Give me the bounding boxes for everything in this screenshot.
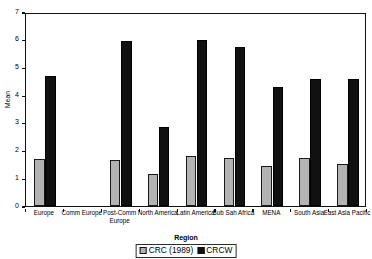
bar-crc-1989 (337, 164, 348, 206)
y-axis-tick-label: 4 (15, 91, 19, 98)
bar-crcw (159, 127, 170, 206)
y-axis-tick-label: 6 (15, 35, 19, 42)
legend-entry: CRCW (197, 246, 232, 255)
bar-crc-1989 (224, 158, 235, 207)
bar-crc-1989 (34, 159, 45, 206)
x-axis-title: Region (0, 234, 372, 241)
bar-crcw (121, 41, 132, 206)
bar-crc-1989 (186, 156, 197, 206)
bar-group (102, 14, 140, 206)
bar-crcw (197, 40, 208, 206)
bar-group (64, 14, 102, 206)
bar-crcw (273, 87, 284, 206)
bar-group (140, 14, 178, 206)
chart-legend: CRC (1989)CRCW (136, 244, 237, 258)
bar-crc-1989 (299, 158, 310, 207)
legend-label: CRC (1989) (149, 246, 194, 255)
y-axis-title: Mean (4, 80, 11, 120)
x-axis-tick-label: East Asia Pacific (323, 209, 371, 217)
y-axis-tick-label: 0 (15, 202, 19, 209)
y-axis-tick-label: 1 (15, 174, 19, 181)
y-axis-tick-label: 5 (15, 63, 19, 70)
bar-crcw (45, 76, 56, 206)
bar-crc-1989 (261, 166, 272, 206)
gray-square-swatch (140, 247, 147, 254)
bars-layer (26, 14, 365, 206)
bar-group (178, 14, 216, 206)
bar-chart-figure: 01234567 Mean EuropeComm EuropePost-Comm… (0, 0, 372, 259)
x-axis: EuropeComm EuropePost-Comm EuropeNorth A… (25, 209, 366, 233)
bar-crc-1989 (110, 160, 121, 206)
bar-group (291, 14, 329, 206)
y-axis-tick-label: 2 (15, 146, 19, 153)
black-square-swatch (197, 247, 204, 254)
bar-crcw (235, 47, 246, 206)
legend-entry: CRC (1989) (140, 246, 194, 255)
y-axis-tick-label: 3 (15, 118, 19, 125)
bar-group (253, 14, 291, 206)
bar-group (329, 14, 367, 206)
plot-area (25, 13, 366, 207)
bar-crcw (348, 79, 359, 206)
bar-group (215, 14, 253, 206)
bar-crc-1989 (148, 174, 159, 206)
x-axis-tick-mark (366, 209, 367, 212)
y-axis-tick-label: 7 (15, 8, 19, 15)
legend-label: CRCW (206, 246, 232, 255)
bar-group (26, 14, 64, 206)
bar-crcw (310, 79, 321, 206)
